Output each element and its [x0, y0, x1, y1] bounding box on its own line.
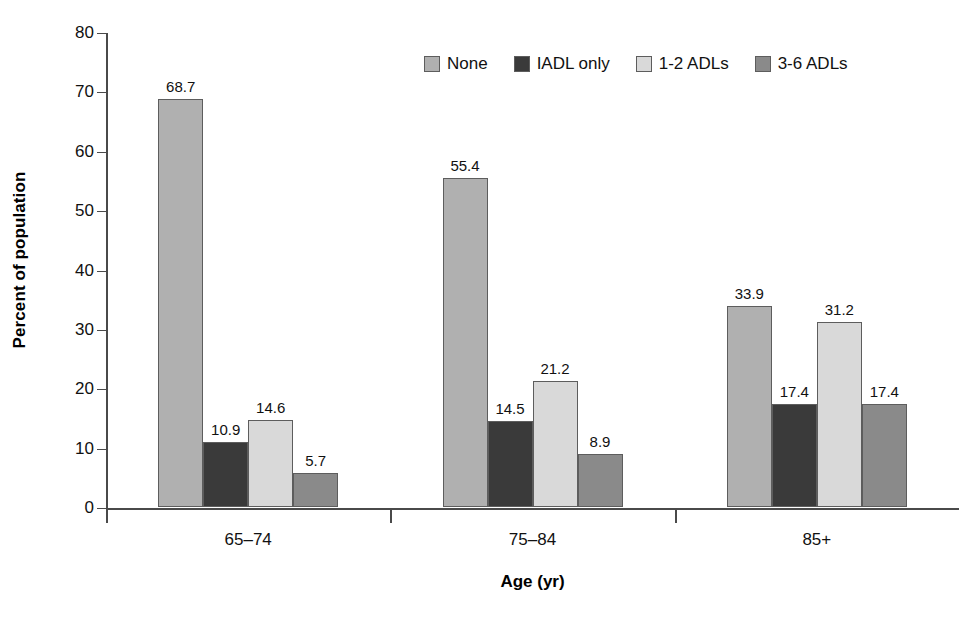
x-axis-title: Age (yr): [106, 572, 959, 592]
y-axis-tick: [97, 211, 106, 212]
legend-label: 1-2 ADLs: [659, 54, 729, 74]
legend-swatch-icon: [636, 56, 652, 72]
y-axis-tick-label: 20: [48, 380, 94, 397]
x-axis-category-label: 85+: [675, 530, 959, 550]
x-axis-line: [106, 508, 959, 510]
bar-value-label: 17.4: [848, 383, 921, 400]
y-axis-tick: [97, 92, 106, 93]
bar: [727, 306, 772, 507]
chart-legend: NoneIADL only1-2 ADLs3-6 ADLs: [424, 54, 848, 74]
y-axis-tick-label: 10: [48, 440, 94, 457]
x-axis-category-label: 65–74: [106, 530, 390, 550]
y-axis-tick: [97, 330, 106, 331]
y-axis-tick-label: 40: [48, 262, 94, 279]
x-axis-tick: [390, 510, 392, 523]
bar-value-label: 21.2: [519, 360, 592, 377]
bar: [203, 442, 248, 507]
x-axis-tick: [675, 510, 677, 523]
legend-item: 1-2 ADLs: [636, 54, 729, 74]
bar-value-label: 14.6: [234, 399, 307, 416]
bar: [293, 473, 338, 507]
legend-item: 3-6 ADLs: [755, 54, 848, 74]
y-axis-tick-label: 60: [48, 143, 94, 160]
bar: [578, 454, 623, 507]
bar: [817, 322, 862, 507]
bar-value-label: 8.9: [564, 433, 637, 450]
legend-swatch-icon: [755, 56, 771, 72]
bar-value-label: 55.4: [429, 157, 502, 174]
y-axis-tick: [97, 508, 106, 509]
legend-item: None: [424, 54, 488, 74]
y-axis-tick-label: 50: [48, 202, 94, 219]
bar-value-label: 68.7: [144, 78, 217, 95]
bar: [862, 404, 907, 507]
y-axis-title-text: Percent of population: [10, 172, 30, 349]
bar: [772, 404, 817, 507]
plot-area: 68.710.914.65.755.414.521.28.933.917.431…: [106, 33, 959, 509]
y-axis-tick: [97, 271, 106, 272]
y-axis-tick-label: 0: [48, 499, 94, 516]
y-axis-tick: [97, 449, 106, 450]
bar-value-label: 5.7: [279, 452, 352, 469]
y-axis-tick: [97, 389, 106, 390]
legend-label: IADL only: [537, 54, 610, 74]
bar-chart-figure: Percent of population 01020304050607080 …: [0, 0, 979, 623]
legend-swatch-icon: [514, 56, 530, 72]
bar: [488, 421, 533, 507]
y-axis-tick-label: 70: [48, 83, 94, 100]
x-axis-category-label: 75–84: [390, 530, 674, 550]
bar-value-label: 33.9: [713, 285, 786, 302]
y-axis-tick-labels: 01020304050607080: [48, 33, 94, 510]
bar: [158, 99, 203, 507]
bar-value-label: 31.2: [803, 301, 876, 318]
y-axis-title: Percent of population: [0, 0, 40, 520]
legend-swatch-icon: [424, 56, 440, 72]
legend-label: None: [447, 54, 488, 74]
y-axis-tick-label: 80: [48, 24, 94, 41]
y-axis-line: [106, 33, 108, 510]
legend-item: IADL only: [514, 54, 610, 74]
y-axis-tick-label: 30: [48, 321, 94, 338]
y-axis-tick: [97, 152, 106, 153]
x-axis-tick: [106, 510, 108, 523]
y-axis-tick: [97, 33, 106, 34]
legend-label: 3-6 ADLs: [778, 54, 848, 74]
bar: [443, 178, 488, 507]
